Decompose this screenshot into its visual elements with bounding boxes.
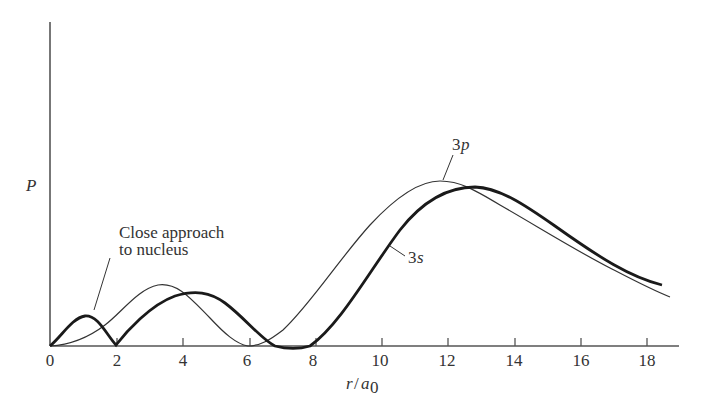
series-label-3p-letter: p [460,135,470,154]
tick-label: 8 [309,351,318,370]
chart-canvas: 0 2 4 6 8 10 12 14 16 18 P r / a 0 Close… [0,0,702,409]
tick-label: 16 [573,351,590,370]
tick-label: 12 [439,351,456,370]
tick-label: 4 [179,351,188,370]
x-tick-labels: 0 2 4 6 8 10 12 14 16 18 [46,351,656,370]
x-axis-label-subscript: 0 [370,378,379,397]
tick-label: 10 [372,351,389,370]
series-3p-curve [50,181,670,346]
annotation-leader-3s [390,246,405,256]
annotation-leader-3p [443,155,453,180]
x-axis-label-a: a [361,374,370,393]
tick-label: 0 [46,351,55,370]
x-axis-label-r: r [346,374,353,393]
series-label-3s-letter: s [417,248,424,267]
tick-label: 6 [243,351,252,370]
tick-label: 14 [506,351,524,370]
series-label-3p-number: 3 [452,135,461,154]
x-axis-label-slash: / [354,374,359,393]
x-ticks [117,338,647,346]
annotation-close-approach-line2: to nucleus [119,240,188,259]
x-axis-label: r / a 0 [346,374,379,397]
tick-label: 18 [639,351,656,370]
series-label-3s-number: 3 [408,248,417,267]
series-3s-curve [50,187,662,349]
annotation-leader-close-approach [94,258,110,310]
tick-label: 2 [113,351,122,370]
y-axis-label: P [25,176,36,195]
